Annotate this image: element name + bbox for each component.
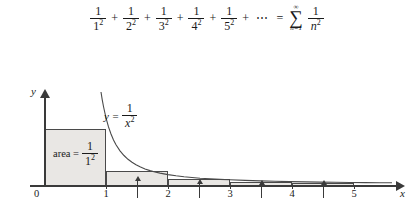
term-3-numerator: 1: [158, 5, 170, 18]
plus-operator: +: [241, 11, 250, 26]
pointer-line-2: [137, 180, 138, 198]
x-axis-label: x: [400, 187, 405, 199]
plus-operator: +: [208, 11, 217, 26]
curve-label-lhs: y =: [104, 110, 119, 122]
y-axis: [44, 96, 46, 186]
area-label-1-fraction: 1 12: [82, 140, 98, 167]
graph-area: x y 0 1 2 3 4 5 area = 1 12 y = 1 x2: [0, 44, 414, 202]
pointer-line-5: [323, 184, 324, 198]
term-2: 1 22: [123, 5, 139, 32]
tick-label-3: 3: [220, 188, 240, 199]
term-3: 1 32: [156, 5, 172, 32]
term-4-denominator: 42: [188, 18, 204, 32]
series-equation: 1 12 + 1 22 + 1 32 + 1 42 + 1 52: [0, 4, 414, 32]
y-axis-arrow-icon: [40, 89, 50, 98]
pointer-arrow-2-icon: [135, 176, 141, 181]
pointer-line-3: [199, 183, 200, 198]
tick-label-2: 2: [158, 188, 178, 199]
tick-label-5: 5: [344, 188, 364, 199]
term-2-numerator: 1: [125, 5, 137, 18]
curve-equation-label: y = 1 x2: [104, 102, 137, 129]
y-axis-label: y: [31, 85, 36, 97]
summand-numerator: 1: [310, 5, 322, 18]
term-4: 1 42: [188, 5, 204, 32]
pointer-line-4: [261, 184, 262, 198]
origin-label: 0: [34, 188, 39, 199]
summation-symbol: ∞ ∑ n=1: [289, 4, 303, 32]
term-5-denominator: 52: [221, 18, 237, 32]
summation-lower-limit: n=1: [290, 25, 302, 32]
plus-operator: +: [110, 11, 119, 26]
plus-operator: +: [143, 11, 152, 26]
summand: 1 n2: [308, 5, 324, 32]
summand-denominator: n2: [308, 18, 324, 32]
pointer-arrow-3-icon: [197, 179, 203, 184]
tick-label-1: 1: [96, 188, 116, 199]
ellipsis: ⋯: [254, 11, 272, 26]
term-5: 1 52: [221, 5, 237, 32]
area-label-1-text: area =: [53, 148, 79, 159]
area-label-1: area = 1 12: [53, 140, 98, 167]
function-curve: [0, 44, 414, 202]
term-1-denominator: 12: [90, 18, 106, 32]
term-3-denominator: 32: [156, 18, 172, 32]
term-2-denominator: 22: [123, 18, 139, 32]
figure-root: 1 12 + 1 22 + 1 32 + 1 42 + 1 52: [0, 0, 414, 202]
term-1-numerator: 1: [92, 5, 104, 18]
term-4-numerator: 1: [190, 5, 202, 18]
term-5-numerator: 1: [223, 5, 235, 18]
equation-row: 1 12 + 1 22 + 1 32 + 1 42 + 1 52: [90, 4, 324, 32]
x-axis: [30, 185, 398, 187]
pointer-arrow-5-icon: [321, 180, 327, 185]
plus-operator: +: [176, 11, 185, 26]
tick-label-4: 4: [282, 188, 302, 199]
equals-sign: =: [276, 11, 285, 26]
curve-label-fraction: 1 x2: [122, 102, 137, 129]
pointer-arrow-4-icon: [259, 180, 265, 185]
term-1: 1 12: [90, 5, 106, 32]
